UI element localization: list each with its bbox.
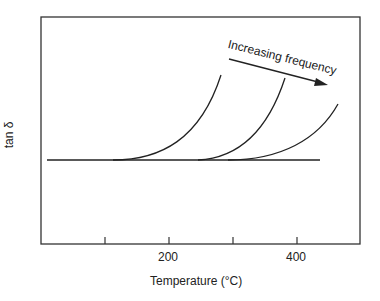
y-axis-label: tan δ: [2, 122, 16, 149]
curve-medium-frequency: [198, 78, 285, 160]
curve-low-frequency: [113, 75, 221, 160]
plot-frame: [41, 17, 360, 244]
arrowhead-icon: [314, 78, 328, 86]
chart-canvas: [0, 0, 380, 301]
curve-high-frequency: [228, 104, 338, 160]
x-axis-label: Temperature (°C): [150, 274, 242, 288]
x-tick-label-200: 200: [158, 250, 178, 264]
x-tick-label-400: 400: [286, 250, 306, 264]
